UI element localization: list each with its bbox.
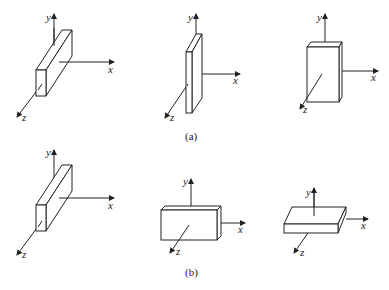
box-top: [161, 206, 221, 210]
y-label: y: [305, 186, 311, 198]
box-front: [36, 205, 46, 231]
z-axis: [165, 84, 188, 118]
box-front: [36, 70, 46, 96]
panel-b3: y x z: [284, 186, 368, 258]
z-label: z: [299, 246, 305, 258]
box-top: [284, 207, 346, 224]
caption-b: (b): [185, 266, 198, 279]
panel-a3: y x z: [300, 11, 378, 115]
box-top: [307, 42, 342, 47]
panel-b2: y x z (b): [161, 175, 245, 279]
x-label: x: [370, 71, 376, 83]
z-label: z: [175, 245, 181, 257]
z-label: z: [302, 103, 308, 115]
x-label: x: [360, 219, 366, 231]
caption-a: (a): [185, 130, 198, 143]
panel-a1: y x z: [17, 11, 114, 123]
box-front: [284, 224, 338, 233]
z-label: z: [169, 111, 175, 123]
x-label: x: [107, 199, 113, 211]
y-label: y: [316, 11, 322, 23]
x-label: x: [232, 74, 238, 86]
y-label: y: [187, 11, 193, 23]
z-label: z: [21, 248, 27, 260]
diagram: y x z y x z (a) y x z y: [0, 0, 389, 290]
panel-a2: y x z (a): [165, 11, 240, 143]
z-label: z: [21, 111, 27, 123]
y-label: y: [45, 146, 51, 158]
box-front: [307, 47, 339, 102]
panel-b1: y x z: [17, 146, 114, 260]
box-front: [186, 52, 192, 113]
box-side: [217, 206, 221, 240]
y-label: y: [182, 175, 188, 187]
y-label: y: [45, 11, 51, 23]
x-label: x: [237, 223, 243, 235]
x-label: x: [107, 63, 113, 75]
